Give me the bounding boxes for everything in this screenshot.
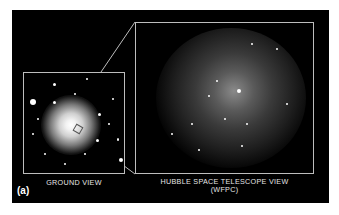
star <box>251 43 253 45</box>
star <box>108 123 110 125</box>
star <box>276 48 278 50</box>
star <box>37 118 39 120</box>
ground-view-caption: GROUND VIEW <box>23 178 125 187</box>
ground-view-image <box>23 72 125 174</box>
star <box>30 99 36 105</box>
figure-panel: GROUND VIEW HUBBLE SPACE TELESCOPE VIEW … <box>12 10 329 203</box>
galaxy-core <box>41 95 101 155</box>
star <box>286 103 288 105</box>
star <box>241 145 243 147</box>
star <box>98 113 101 116</box>
star <box>96 139 99 142</box>
star <box>119 158 123 162</box>
star <box>112 98 114 100</box>
hubble-view-caption: HUBBLE SPACE TELESCOPE VIEW (WFPC) <box>135 178 314 194</box>
hubble-view-image <box>135 22 314 174</box>
star <box>191 123 193 125</box>
star <box>32 133 34 135</box>
star <box>216 80 218 82</box>
star <box>208 95 210 97</box>
star <box>84 153 86 155</box>
panel-tag: (a) <box>17 185 29 196</box>
hubble-view-caption-line2: (WFPC) <box>135 186 314 194</box>
star <box>64 163 66 165</box>
galaxy-core <box>156 28 306 168</box>
star <box>44 153 46 155</box>
star <box>198 149 200 151</box>
star <box>86 78 88 80</box>
star <box>246 123 248 125</box>
star <box>171 133 173 135</box>
star <box>53 83 56 86</box>
star <box>224 118 226 120</box>
star <box>53 101 56 104</box>
star <box>237 89 241 93</box>
star <box>117 138 119 141</box>
star <box>74 93 76 95</box>
